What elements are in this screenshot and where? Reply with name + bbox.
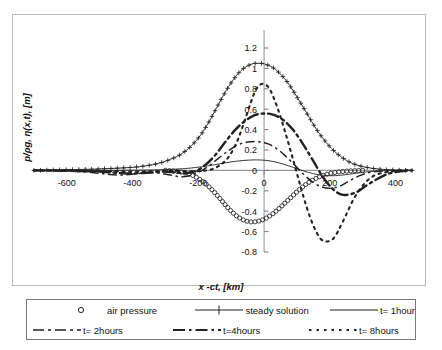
legend-label: t= 1hour (380, 305, 415, 316)
legend-item-t-4hours[interactable]: t=4hours (171, 320, 307, 340)
line-solid-icon (328, 303, 380, 317)
y-axis-tick-label: 1 (252, 64, 257, 74)
legend-item-t-1hour[interactable]: t= 1hour (328, 300, 415, 320)
line-thick-dashdot-icon (171, 323, 223, 337)
x-axis-tick-label: 0 (262, 178, 267, 188)
y-axis-tick-label: -0.6 (242, 227, 258, 237)
legend-label: t=4hours (223, 325, 260, 336)
plot-canvas: 1.210.80.60.40.20-0.2-0.4-0.6-0.8-600-40… (12, 14, 426, 286)
chart-legend: air pressure steady solution t= 1hour (26, 299, 416, 340)
y-axis-title: p/ρg, η(x,t), [m] (21, 80, 32, 176)
series-line-t-8hours (34, 84, 412, 242)
line-dashdot-icon (31, 323, 83, 337)
series-markers-steady-solution (32, 61, 415, 173)
y-axis-tick-label: -0.2 (242, 186, 258, 196)
x-axis-tick-label: -400 (124, 178, 142, 188)
legend-label: t= 2hours (83, 325, 123, 336)
line-plus-icon (193, 303, 245, 317)
legend-item-t-2hours[interactable]: t= 2hours (27, 320, 171, 340)
legend-item-air-pressure[interactable]: air pressure (27, 300, 193, 320)
y-axis-tick-label: 0.4 (245, 125, 258, 135)
legend-item-t-8hours[interactable]: t= 8hours (307, 320, 399, 340)
y-axis-tick-label: -0.4 (242, 207, 258, 217)
y-axis-tick-label: 1.2 (245, 43, 258, 53)
y-axis-tick-label: 0.2 (245, 145, 258, 155)
x-axis-title: x -ct, [km] (0, 281, 442, 292)
chart-figure: 1.210.80.60.40.20-0.2-0.4-0.6-0.8-600-40… (0, 0, 442, 350)
plot-area: 1.210.80.60.40.20-0.2-0.4-0.6-0.8-600-40… (12, 14, 426, 286)
x-axis-tick-label: 400 (388, 178, 403, 188)
y-axis-tick-label: 0 (252, 166, 257, 176)
legend-row: t= 2hours t=4hours t= 8hours (27, 320, 415, 340)
legend-row: air pressure steady solution t= 1hour (27, 300, 415, 320)
marker-circle-icon (55, 303, 107, 317)
legend-label: air pressure (107, 305, 157, 316)
y-axis-tick-label: -0.8 (242, 247, 258, 257)
legend-item-steady-solution[interactable]: steady solution (193, 300, 327, 320)
series-line-steady-solution (34, 63, 412, 170)
legend-label: t= 8hours (359, 325, 399, 336)
legend-label: steady solution (245, 305, 308, 316)
line-dotted-icon (307, 323, 359, 337)
x-axis-tick-label: -600 (58, 178, 76, 188)
series-line-t-4hours (34, 113, 412, 195)
